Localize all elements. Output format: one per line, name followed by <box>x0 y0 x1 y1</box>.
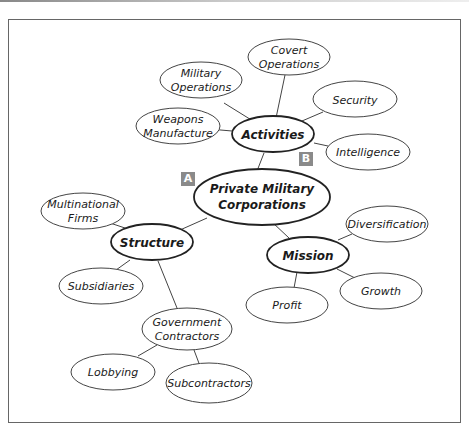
svg-text:Military: Military <box>181 67 222 80</box>
label-tag-b: B <box>299 152 313 166</box>
svg-text:Operations: Operations <box>171 81 232 94</box>
hub-structure-label: Structure <box>120 236 184 250</box>
svg-text:Intelligence: Intelligence <box>336 146 400 159</box>
central-line-1: Private Military <box>210 182 315 196</box>
hub-activities[interactable]: Activities <box>232 116 314 152</box>
leaf-lobbying[interactable]: Lobbying <box>71 354 155 390</box>
svg-text:Contractors: Contractors <box>155 330 220 343</box>
leaf-security[interactable]: Security <box>313 81 397 117</box>
hub-mission-label: Mission <box>282 249 333 263</box>
leaf-diversification[interactable]: Diversification <box>346 206 428 242</box>
central-line-2: Corporations <box>218 198 306 212</box>
svg-text:Lobbying: Lobbying <box>88 366 138 379</box>
leaf-subcontractors[interactable]: Subcontractors <box>166 363 252 403</box>
leaf-intelligence[interactable]: Intelligence <box>326 134 410 170</box>
svg-text:Government: Government <box>153 316 222 329</box>
concept-map: Private Military Corporations Activities… <box>0 0 469 435</box>
svg-text:Subcontractors: Subcontractors <box>167 377 251 390</box>
label-tag-a: A <box>181 172 195 186</box>
leaf-weapons-manufacture[interactable]: Weapons Manufacture <box>136 108 220 144</box>
hub-mission[interactable]: Mission <box>267 237 349 273</box>
svg-text:Operations: Operations <box>259 58 320 71</box>
svg-text:Weapons: Weapons <box>153 113 204 126</box>
leaf-multinational-firms[interactable]: Multinational Firms <box>41 193 125 229</box>
svg-text:Security: Security <box>332 94 378 107</box>
svg-text:Manufacture: Manufacture <box>143 127 213 140</box>
hub-activities-label: Activities <box>241 128 305 142</box>
leaf-covert-operations[interactable]: Covert Operations <box>248 39 330 75</box>
leaf-government-contractors[interactable]: Government Contractors <box>142 308 232 350</box>
leaf-military-operations[interactable]: Military Operations <box>160 62 242 98</box>
svg-text:Diversification: Diversification <box>347 218 426 231</box>
svg-text:Profit: Profit <box>272 299 302 312</box>
leaf-profit[interactable]: Profit <box>246 287 328 323</box>
svg-text:Firms: Firms <box>68 212 99 225</box>
svg-text:Subsidiaries: Subsidiaries <box>68 280 135 293</box>
leaf-subsidiaries[interactable]: Subsidiaries <box>59 268 143 304</box>
leaf-growth[interactable]: Growth <box>340 273 422 309</box>
svg-text:Multinational: Multinational <box>47 198 118 211</box>
central-node-private-military-corporations[interactable]: Private Military Corporations <box>194 169 330 225</box>
svg-text:Covert: Covert <box>271 44 308 57</box>
hub-structure[interactable]: Structure <box>111 224 193 260</box>
svg-text:Growth: Growth <box>361 285 401 298</box>
